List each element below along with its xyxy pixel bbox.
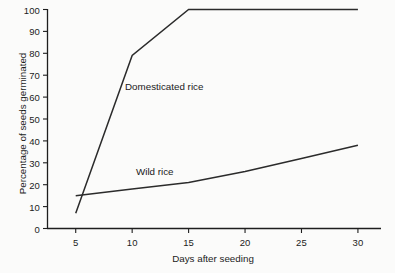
x-axis-tick-label: 10	[127, 237, 138, 248]
x-axis-tick-label: 5	[73, 237, 78, 248]
series-label-domesticated-rice: Domesticated rice	[125, 81, 203, 92]
y-axis-tick-label: 0	[8, 223, 40, 234]
germination-line-chart: 0102030405060708090100 51015202530 Perce…	[0, 0, 395, 273]
chart-plot-area	[0, 0, 395, 273]
x-axis-tick-label: 30	[353, 237, 364, 248]
x-axis-tick-label: 15	[183, 237, 194, 248]
series-label-wild-rice: Wild rice	[136, 166, 174, 177]
y-axis-title: Percentage of seeds germinated	[17, 24, 28, 224]
chart-background	[0, 0, 395, 273]
x-axis-tick-label: 25	[296, 237, 307, 248]
x-axis-tick-label: 20	[240, 237, 251, 248]
x-axis-title: Days after seeding	[172, 253, 254, 264]
y-axis-tick-label: 100	[8, 4, 40, 15]
